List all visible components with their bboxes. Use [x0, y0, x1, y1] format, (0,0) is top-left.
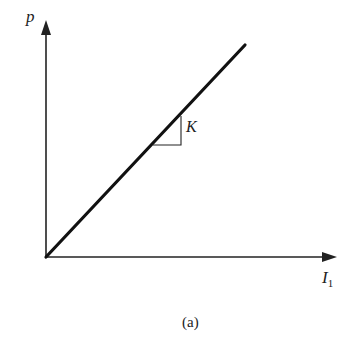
slope-label: K	[186, 118, 197, 136]
y-axis	[41, 20, 51, 257]
linear-relation-line	[46, 45, 245, 257]
figure-caption: (a)	[182, 314, 199, 331]
x-axis-arrow-icon	[322, 252, 337, 262]
diagram-canvas	[0, 0, 360, 347]
y-axis-label: p	[26, 7, 35, 27]
y-axis-arrow-icon	[41, 20, 51, 35]
x-axis-label: I1	[322, 268, 333, 289]
x-axis	[46, 252, 337, 262]
x-axis-label-subscript: 1	[328, 277, 334, 289]
